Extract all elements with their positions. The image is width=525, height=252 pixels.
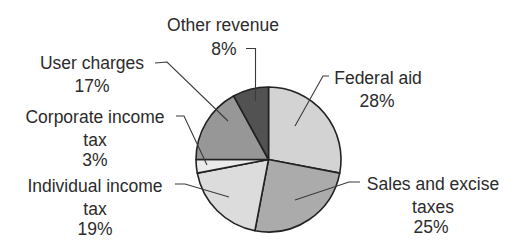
label-federal-aid: Federal aid 28%	[334, 68, 422, 111]
label-user-charges-pct: 17%	[74, 76, 109, 96]
slice-sales-excise-taxes	[255, 160, 340, 233]
pie-chart-svg: Other revenue 8% User charges 17% Corpor…	[0, 0, 525, 252]
label-individual-income: Individual income tax 19%	[27, 176, 162, 239]
label-sales-excise-line1: Sales and excise	[367, 174, 499, 194]
pie-chart: Other revenue 8% User charges 17% Corpor…	[0, 0, 525, 252]
label-other-revenue: Other revenue 8%	[167, 15, 279, 59]
label-federal-aid-pct: 28%	[359, 91, 394, 111]
label-corporate-income: Corporate income tax 3%	[25, 107, 164, 170]
label-other-revenue-pct: 8%	[211, 39, 236, 59]
label-corporate-income-pct: 3%	[82, 150, 107, 170]
pie-slices	[196, 87, 341, 232]
label-sales-excise-pct: 25%	[413, 217, 448, 237]
label-federal-aid-name: Federal aid	[334, 68, 422, 88]
label-sales-excise-line2: taxes	[412, 197, 454, 217]
label-individual-income-line1: Individual income	[27, 176, 162, 196]
label-individual-income-line2: tax	[83, 199, 107, 219]
label-user-charges: User charges 17%	[40, 53, 144, 96]
slice-federal-aid	[269, 87, 342, 173]
label-individual-income-pct: 19%	[77, 219, 112, 239]
label-corporate-income-line1: Corporate income	[25, 107, 164, 127]
label-sales-excise: Sales and excise taxes 25%	[367, 174, 499, 237]
label-user-charges-name: User charges	[40, 53, 144, 73]
label-other-revenue-name: Other revenue	[167, 15, 279, 35]
label-corporate-income-line2: tax	[83, 130, 107, 150]
